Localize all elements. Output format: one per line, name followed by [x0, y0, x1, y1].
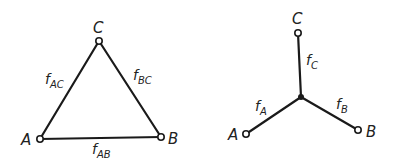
edge-label-ac: fAC — [45, 71, 64, 90]
star-network: C A B fC fA fB — [227, 10, 376, 144]
node-label-b: B — [168, 130, 178, 148]
node-label-b: B — [366, 123, 376, 141]
terminal-b-icon — [158, 134, 164, 140]
edge-b — [301, 97, 358, 130]
terminal-b-icon — [355, 127, 361, 133]
edge-label-c: fC — [306, 52, 318, 71]
diagram-canvas: C A B fAC fBC fAB C A B fC fA fB — [0, 0, 395, 167]
edge-label-b: fB — [336, 96, 348, 115]
edge-ab — [40, 137, 161, 139]
delta-network: C A B fAC fBC fAB — [20, 19, 178, 160]
center-node-icon — [298, 94, 304, 100]
terminal-c-icon — [295, 30, 301, 36]
edge-label-ab: fAB — [92, 141, 111, 160]
edge-c — [298, 33, 301, 97]
terminal-c-icon — [96, 38, 102, 44]
node-label-a: A — [227, 126, 238, 144]
node-label-c: C — [292, 10, 303, 28]
edge-label-a: fA — [255, 98, 267, 117]
terminal-a-icon — [243, 131, 249, 137]
terminal-a-icon — [37, 136, 43, 142]
node-label-a: A — [20, 131, 31, 149]
edge-bc — [99, 41, 161, 137]
edge-ac — [40, 41, 99, 139]
node-label-c: C — [93, 19, 104, 37]
edge-label-bc: fBC — [133, 67, 152, 86]
